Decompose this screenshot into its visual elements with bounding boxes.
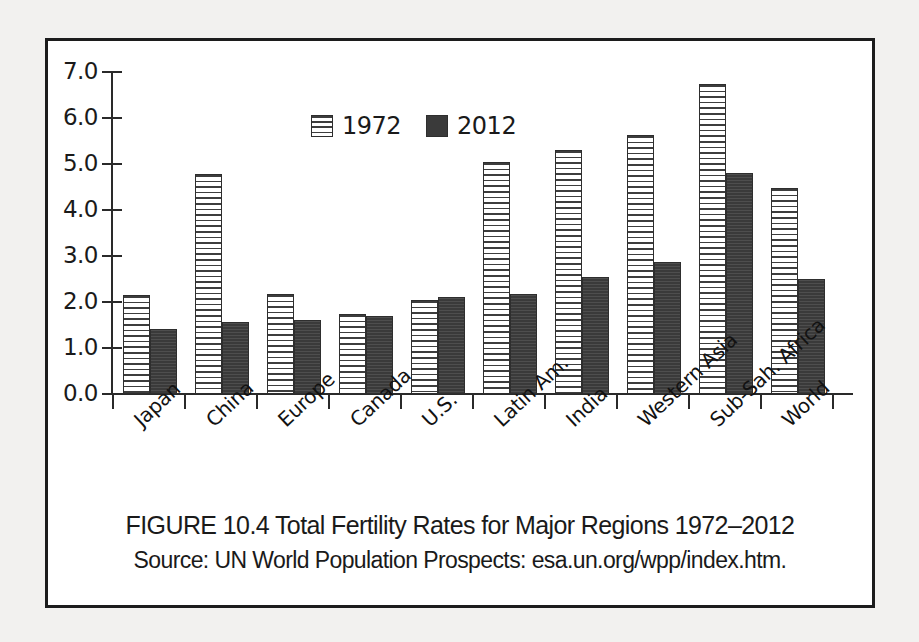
y-tick-7.0 — [102, 71, 122, 73]
x-tick-5 — [472, 393, 474, 409]
figure-source: Source: UN World Population Prospects: e… — [48, 547, 872, 574]
x-tick-9 — [760, 393, 762, 409]
y-tick-5.0 — [102, 163, 122, 165]
y-tick-1.0 — [102, 347, 122, 349]
y-tick-3.0 — [102, 255, 122, 257]
bar-2012-india — [582, 277, 609, 394]
legend-item-2012: 2012 — [426, 112, 516, 140]
x-tick-8 — [688, 393, 690, 409]
bar-2012-sub-sah-africa — [726, 173, 753, 394]
y-tick-6.0 — [102, 117, 122, 119]
x-tick-3 — [328, 393, 330, 409]
y-tick-label-2.0: 2.0 — [63, 288, 98, 314]
x-tick-2 — [256, 393, 258, 409]
chart-legend: 1972 2012 — [311, 112, 516, 140]
y-tick-label-1.0: 1.0 — [63, 334, 98, 360]
bar-2012-u-s — [438, 297, 465, 394]
x-tick-6 — [544, 393, 546, 409]
bar-group-japan — [123, 67, 177, 394]
bar-1972-western-asia — [627, 135, 654, 394]
figure-title: FIGURE 10.4 Total Fertility Rates for Ma… — [48, 511, 872, 540]
y-tick-label-5.0: 5.0 — [63, 150, 98, 176]
y-tick-label-0.0: 0.0 — [63, 380, 98, 406]
legend-swatch-2012-icon — [426, 115, 448, 137]
y-tick-label-4.0: 4.0 — [63, 196, 98, 222]
bar-group-china — [195, 67, 249, 394]
bar-1972-latin-am — [483, 162, 510, 394]
y-axis-line — [111, 71, 113, 393]
legend-label-1972: 1972 — [342, 112, 401, 140]
bar-1972-china — [195, 174, 222, 394]
x-tick-4 — [400, 393, 402, 409]
bar-1972-japan — [123, 295, 150, 394]
x-tick-1 — [184, 393, 186, 409]
legend-item-1972: 1972 — [311, 112, 401, 140]
bar-group-india — [555, 67, 609, 394]
legend-swatch-1972-icon — [311, 115, 333, 137]
y-tick-label-3.0: 3.0 — [63, 242, 98, 268]
figure-frame: 7.06.05.04.03.02.01.00.0 JapanChinaEurop… — [45, 38, 875, 608]
x-tick-0 — [112, 393, 114, 409]
bar-1972-canada — [339, 314, 366, 395]
bar-group-western-asia — [627, 67, 681, 394]
y-tick-4.0 — [102, 209, 122, 211]
y-tick-label-6.0: 6.0 — [63, 104, 98, 130]
x-tick-10 — [832, 393, 834, 409]
y-tick-2.0 — [102, 301, 122, 303]
bar-1972-europe — [267, 294, 294, 394]
plot-area: 7.06.05.04.03.02.01.00.0 JapanChinaEurop… — [111, 66, 856, 396]
figure-caption: FIGURE 10.4 Total Fertility Rates for Ma… — [48, 511, 872, 574]
y-tick-label-7.0: 7.0 — [63, 58, 98, 84]
x-tick-7 — [616, 393, 618, 409]
legend-label-2012: 2012 — [457, 112, 516, 140]
